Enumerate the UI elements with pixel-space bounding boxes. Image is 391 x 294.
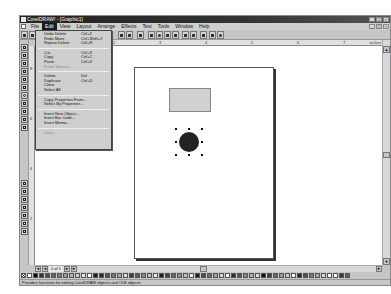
color-swatch[interactable] [27,273,32,278]
color-swatch[interactable] [339,273,344,278]
new-button[interactable] [21,31,28,39]
color-swatch[interactable] [81,273,86,278]
color-swatch[interactable] [189,273,194,278]
maximize-button[interactable]: □ [376,17,382,22]
menu-view[interactable]: View [57,23,74,30]
menu-help[interactable]: Help [196,23,212,30]
shape-tool[interactable] [21,52,28,59]
no-fill-swatch[interactable] [21,273,26,278]
menu-effects[interactable]: Effects [118,23,139,30]
import-button[interactable] [118,31,125,39]
menu-text[interactable]: Text [139,23,154,30]
color-swatch[interactable] [327,273,332,278]
color-swatch[interactable] [231,273,236,278]
full-screen-preview-button[interactable] [164,31,171,39]
vertical-scroll-thumb[interactable] [383,152,390,158]
color-swatch[interactable] [183,273,188,278]
color-swatch[interactable] [129,273,134,278]
color-swatch[interactable] [147,273,152,278]
color-swatch[interactable] [171,273,176,278]
ellipse-tool[interactable] [21,92,28,99]
color-swatch[interactable] [153,273,158,278]
color-swatch[interactable] [75,273,80,278]
color-swatch[interactable] [237,273,242,278]
selection-handle[interactable] [175,154,177,156]
app-icon[interactable] [21,17,26,22]
color-swatch[interactable] [69,273,74,278]
color-swatch[interactable] [207,273,212,278]
scroll-up-button[interactable]: ▲ [383,46,390,53]
to-back-button[interactable] [190,31,197,39]
ellipse-object-selected[interactable] [179,132,199,152]
color-swatch[interactable] [57,273,62,278]
edit-menu-item-repeat-delete[interactable]: Repeat DeleteCtrl+R [36,41,111,46]
color-swatch[interactable] [99,273,104,278]
vertical-scrollbar[interactable]: ▲ ▼ [382,40,390,265]
color-swatch[interactable] [291,273,296,278]
color-swatch[interactable] [285,273,290,278]
color-swatch[interactable] [321,273,326,278]
snap-to-grid-button[interactable] [148,31,155,39]
eyedropper-tool[interactable] [21,196,28,203]
interactive-fill-tool[interactable] [21,204,28,211]
to-front-button[interactable] [182,31,189,39]
color-swatch[interactable] [249,273,254,278]
wireframe-button[interactable] [156,31,163,39]
fit-text-to-path-button[interactable] [200,31,207,39]
edit-menu-item-select-all[interactable]: Select All [36,88,111,93]
dimension-tool[interactable] [21,76,28,83]
color-swatch[interactable] [39,273,44,278]
text-tool[interactable] [21,116,28,123]
color-swatch[interactable] [201,273,206,278]
close-button[interactable]: × [383,17,389,22]
pick-tool[interactable] [21,44,28,51]
transparency-tool[interactable] [21,228,28,235]
printable-page[interactable] [134,67,274,259]
color-swatch[interactable] [315,273,320,278]
color-swatch[interactable] [303,273,308,278]
color-swatch[interactable] [159,273,164,278]
group-button[interactable] [172,31,179,39]
selection-handle[interactable] [188,154,190,156]
color-swatch[interactable] [243,273,248,278]
doc-minimize-button[interactable]: _ [369,24,375,29]
menu-tools[interactable]: Tools [155,23,173,30]
menu-file[interactable]: File [28,23,42,30]
menu-layout[interactable]: Layout [73,23,94,30]
symbols-button[interactable] [209,31,216,39]
selection-handle[interactable] [188,128,190,130]
color-swatch[interactable] [111,273,116,278]
horizontal-scrollbar[interactable]: ◄ ◄ 1 of 1 ► ► ► [35,265,382,272]
minimize-button[interactable]: _ [369,17,375,22]
print-button[interactable] [137,31,144,39]
color-swatch[interactable] [63,273,68,278]
color-swatch[interactable] [105,273,110,278]
color-swatch[interactable] [87,273,92,278]
color-swatch[interactable] [165,273,170,278]
color-swatch[interactable] [177,273,182,278]
color-swatch[interactable] [123,273,128,278]
polygon-tool[interactable] [21,100,28,107]
menu-arrange[interactable]: Arrange [94,23,118,30]
color-swatch[interactable] [51,273,56,278]
selection-handle[interactable] [175,141,177,143]
color-swatch[interactable] [45,273,50,278]
menu-window[interactable]: Window [172,23,196,30]
color-swatch[interactable] [261,273,266,278]
doc-restore-button[interactable]: □ [376,24,382,29]
color-swatch[interactable] [195,273,200,278]
color-swatch[interactable] [273,273,278,278]
outline-tool[interactable] [21,180,28,187]
color-swatch[interactable] [345,273,350,278]
doc-close-button[interactable]: × [383,24,389,29]
blend-tool[interactable] [21,212,28,219]
color-swatch[interactable] [135,273,140,278]
zoom-tool[interactable] [21,60,28,67]
help-pointer-button[interactable] [217,31,224,39]
rectangle-object[interactable] [169,88,211,112]
menu-edit[interactable]: Edit [42,23,57,30]
color-swatch[interactable] [225,273,230,278]
spiral-tool[interactable] [21,108,28,115]
rectangle-tool[interactable] [21,84,28,91]
pencil-tool[interactable] [21,68,28,75]
